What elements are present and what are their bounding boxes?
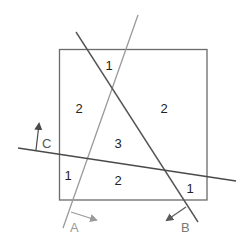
region-bottom-right: 1 [186,181,193,196]
line-c-label: C [42,136,51,151]
arrow-a-icon [71,212,96,220]
diagram-canvas: A B C 1 2 2 3 1 2 1 [0,0,245,246]
region-top: 1 [105,58,112,73]
region-left: 2 [75,101,82,116]
region-center: 3 [114,136,121,151]
region-right: 2 [160,101,167,116]
arrow-c-icon [36,124,39,150]
region-bottom-left: 1 [64,168,71,183]
line-c [18,148,236,181]
square-boundary [60,50,208,201]
line-a-label: A [70,220,79,235]
region-bottom-center: 2 [114,173,121,188]
arrow-b-icon [167,207,186,220]
line-b [76,32,198,222]
line-a [63,15,138,228]
line-b-label: B [181,220,190,235]
